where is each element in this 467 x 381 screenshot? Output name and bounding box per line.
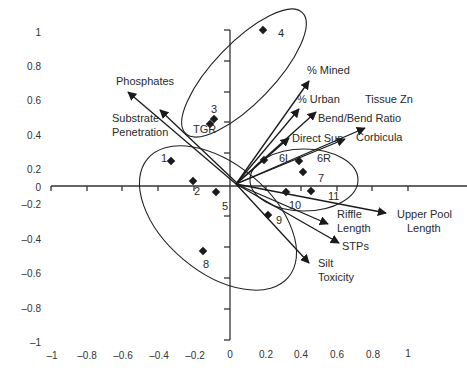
vector-label-upper-pool-line1: Upper Pool xyxy=(397,208,452,220)
vector-label-phosphates: Phosphates xyxy=(116,75,175,87)
x-tick: –0.2 xyxy=(185,350,205,361)
x-tick: 0.8 xyxy=(366,349,380,360)
vector-label-bend-ratio: Bend/Bend Ratio xyxy=(318,112,401,124)
biplot-chart: 1 0.8 0.6 0.4 0.2 0 –0.2 –0.4 –0.6 –0.8 … xyxy=(0,0,467,381)
y-tick: –0.6 xyxy=(22,268,42,279)
vector-labels: Phosphates Substrate Penetration % Mined… xyxy=(112,64,452,283)
point-label-2: 2 xyxy=(194,185,200,197)
point-label-8: 8 xyxy=(203,258,209,270)
point-label-6l: 6L xyxy=(279,152,291,164)
point-label-3: 3 xyxy=(211,103,217,115)
vector-label-upper-pool-line2: Length xyxy=(407,222,441,234)
point-label-5: 5 xyxy=(222,200,228,212)
y-axis xyxy=(224,30,230,340)
vector-label-direct-sun: Direct Sun xyxy=(292,132,343,144)
point-8 xyxy=(199,247,207,255)
point-label-7: 7 xyxy=(318,172,324,184)
point-7 xyxy=(299,168,307,176)
chart-canvas: 1 0.8 0.6 0.4 0.2 0 –0.2 –0.4 –0.6 –0.8 … xyxy=(0,0,467,381)
point-10 xyxy=(282,188,290,196)
y-tick: –0.4 xyxy=(22,234,42,245)
y-tick-labels: 1 0.8 0.6 0.4 0.2 0 –0.2 –0.4 –0.6 –0.8 … xyxy=(22,27,42,348)
point-label-10: 10 xyxy=(289,199,301,211)
group-ellipse-left xyxy=(113,117,323,318)
point-label-1: 1 xyxy=(161,152,167,164)
vector-label-silt-line2: Toxicity xyxy=(318,271,355,283)
x-tick: –1 xyxy=(46,350,58,361)
point-11 xyxy=(307,187,315,195)
x-tick: 0.2 xyxy=(259,349,273,360)
vector-label-mined: % Mined xyxy=(307,64,350,76)
point-label-tgr: TGR xyxy=(193,123,216,135)
point-2 xyxy=(189,177,197,185)
point-4 xyxy=(259,26,267,34)
vector-label-stps: STPs xyxy=(342,240,369,252)
y-tick: 0.6 xyxy=(27,95,41,106)
y-tick: –1 xyxy=(30,337,42,348)
point-label-4: 4 xyxy=(278,27,284,39)
x-tick: 0.4 xyxy=(294,349,308,360)
x-tick: 0.6 xyxy=(330,349,344,360)
vector-label-substrate-line1: Substrate xyxy=(112,112,159,124)
y-tick: 1 xyxy=(35,27,41,38)
y-tick: –0.8 xyxy=(22,303,42,314)
point-9 xyxy=(264,211,272,219)
vector-label-urban: % Urban xyxy=(297,93,340,105)
vector-urban xyxy=(236,109,299,184)
y-tick: 0.4 xyxy=(27,130,41,141)
point-label-6r: 6R xyxy=(317,152,331,164)
y-tick: 0 xyxy=(35,182,41,193)
y-tick: –0.2 xyxy=(22,199,42,210)
vector-label-riffle-line2: Length xyxy=(337,222,371,234)
x-tick: –0.4 xyxy=(149,350,169,361)
y-tick: 0.8 xyxy=(27,61,41,72)
x-tick: –0.8 xyxy=(77,350,97,361)
point-1 xyxy=(167,157,175,165)
vector-substrate-penetration xyxy=(160,110,238,184)
vector-label-substrate-line2: Penetration xyxy=(112,126,168,138)
x-tick: –0.6 xyxy=(113,350,133,361)
x-tick-labels: –1 –0.8 –0.6 –0.4 –0.2 0 0.2 0.4 0.6 0.8… xyxy=(46,348,411,361)
y-tick: 0.2 xyxy=(27,164,41,175)
x-tick: 1 xyxy=(405,348,411,359)
vector-label-riffle-line1: Riffle xyxy=(337,208,362,220)
x-tick: 0 xyxy=(227,349,233,360)
vector-label-silt-line1: Silt xyxy=(318,257,333,269)
vector-phosphates xyxy=(128,92,236,184)
point-label-9: 9 xyxy=(276,214,282,226)
vector-label-corbicula: Corbicula xyxy=(356,131,403,143)
point-label-11: 11 xyxy=(328,190,339,202)
point-5 xyxy=(212,188,220,196)
vector-label-tissue-zn: Tissue Zn xyxy=(365,93,413,105)
